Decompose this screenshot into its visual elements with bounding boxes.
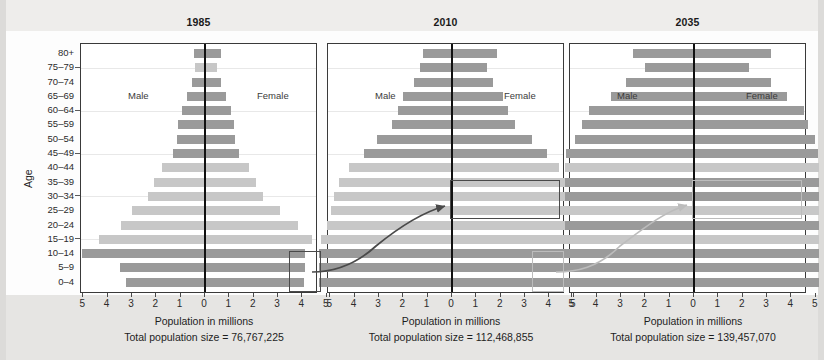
y-axis-label-04: 0–4 — [36, 276, 74, 287]
x-tick — [717, 293, 718, 297]
y-axis-label-1014: 10–14 — [36, 247, 74, 258]
female-label-2010: Female — [504, 90, 536, 101]
x-axis-title-1985: Population in millions — [124, 315, 284, 327]
panel-2010: MaleFemale — [327, 43, 564, 293]
bar-2010-4044 — [349, 163, 560, 172]
panel-2035: MaleFemale — [569, 43, 806, 293]
center-axis-line — [451, 44, 453, 292]
y-axis-label-2529: 25–29 — [36, 204, 74, 215]
x-axis-title-2010: Population in millions — [371, 315, 531, 327]
panel-title-1985: 1985 — [80, 15, 317, 29]
total-population-2035: Total population size = 139,457,070 — [573, 331, 813, 343]
bar-1985-6064 — [182, 106, 231, 115]
bar-1985-6569 — [187, 92, 226, 101]
female-label-1985: Female — [257, 90, 289, 101]
bar-2010-7074 — [414, 78, 493, 87]
x-tick — [669, 293, 670, 297]
y-axis-title: Age — [22, 169, 34, 188]
total-population-2010: Total population size = 112,468,855 — [331, 331, 571, 343]
cohort-highlight-2010-lower — [532, 251, 564, 292]
bar-2010-7579 — [420, 63, 487, 72]
male-label-2035: Male — [617, 90, 638, 101]
y-axis-label-5559: 55–59 — [36, 118, 74, 129]
x-tick — [693, 293, 694, 297]
x-tick-label: 5 — [563, 298, 579, 309]
total-population-1985: Total population size = 76,767,225 — [84, 331, 324, 343]
bar-2035-1519 — [564, 235, 820, 244]
x-tick — [766, 293, 767, 297]
male-label-2010: Male — [375, 90, 396, 101]
panel-1985: MaleFemale — [80, 43, 317, 293]
y-axis-label-3034: 30–34 — [36, 190, 74, 201]
female-label-2035: Female — [746, 90, 778, 101]
population-pyramid-figure: 80+75–7970–7465–6960–6455–5950–5445–4940… — [0, 0, 824, 360]
bar-2010-6569 — [403, 92, 503, 101]
x-tick — [790, 293, 791, 297]
cohort-highlight-1985 — [289, 251, 321, 292]
panel-title-2035: 2035 — [569, 15, 806, 29]
y-axis-label-80+: 80+ — [36, 47, 74, 58]
bar-2035-5559 — [582, 120, 808, 129]
x-axis-title-2035: Population in millions — [613, 315, 773, 327]
x-tick-label: 2 — [734, 298, 750, 309]
x-tick — [644, 293, 645, 297]
panel-title-2010: 2010 — [327, 15, 564, 29]
y-axis-label-4044: 40–44 — [36, 161, 74, 172]
y-axis-label-4549: 45–49 — [36, 147, 74, 158]
x-tick-label: 0 — [685, 298, 701, 309]
x-tick — [815, 293, 816, 297]
y-axis-label-59: 5–9 — [36, 261, 74, 272]
bar-2035-7074 — [626, 78, 771, 87]
y-axis-label-7074: 70–74 — [36, 76, 74, 87]
bar-2010-5559 — [392, 120, 515, 129]
bar-2035-6064 — [589, 106, 803, 115]
center-axis-line — [693, 44, 695, 292]
bar-2010-80+ — [423, 49, 497, 58]
x-tick-label: 4 — [782, 298, 798, 309]
male-label-1985: Male — [128, 90, 149, 101]
bar-1985-2024 — [121, 221, 298, 230]
center-axis-line — [204, 44, 206, 292]
x-tick-label: 3 — [758, 298, 774, 309]
x-tick — [742, 293, 743, 297]
x-tick-label: 5 — [807, 298, 823, 309]
x-tick-label: 3 — [612, 298, 628, 309]
bar-2035-7579 — [645, 63, 748, 72]
bar-1985-5054 — [177, 135, 235, 144]
bar-2010-5054 — [377, 135, 533, 144]
bar-1985-2529 — [132, 206, 281, 215]
cohort-highlight-2010 — [450, 180, 560, 219]
bar-1985-59 — [120, 263, 305, 272]
x-tick — [620, 293, 621, 297]
y-axis-label-1519: 15–19 — [36, 233, 74, 244]
x-tick-label: 1 — [709, 298, 725, 309]
y-axis-label-6569: 65–69 — [36, 90, 74, 101]
bar-1985-7074 — [192, 78, 221, 87]
x-tick — [596, 293, 597, 297]
bar-1985-1014 — [82, 249, 305, 258]
bar-2035-80+ — [633, 49, 771, 58]
y-axis-label-5054: 50–54 — [36, 133, 74, 144]
x-tick-label: 2 — [636, 298, 652, 309]
cohort-highlight-2035 — [692, 180, 802, 219]
bar-1985-7579 — [195, 63, 217, 72]
y-axis-label-7579: 75–79 — [36, 61, 74, 72]
bar-1985-80+ — [194, 49, 221, 58]
y-axis-label-3539: 35–39 — [36, 176, 74, 187]
bar-2010-6064 — [398, 106, 508, 115]
bar-1985-5559 — [178, 120, 234, 129]
y-axis-label-6064: 60–64 — [36, 104, 74, 115]
y-axis-label-2024: 20–24 — [36, 219, 74, 230]
bar-2010-4549 — [364, 149, 547, 158]
x-axis-2035: 54321012345 — [0, 293, 824, 315]
bar-1985-04 — [126, 278, 304, 287]
x-tick-label: 1 — [661, 298, 677, 309]
bar-1985-4549 — [173, 149, 239, 158]
x-tick — [571, 293, 572, 297]
x-tick-label: 4 — [588, 298, 604, 309]
